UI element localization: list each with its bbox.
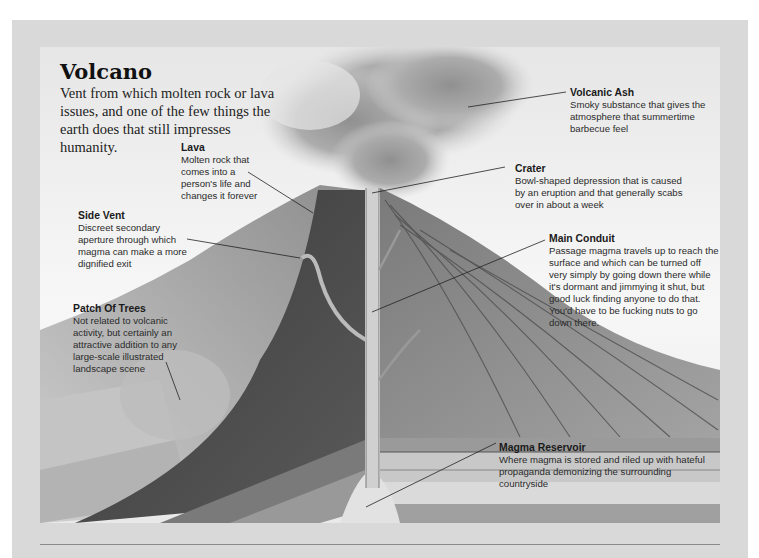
- label-heading: Side Vent: [78, 209, 198, 222]
- label-text: Smoky substance that gives the atmospher…: [570, 99, 705, 134]
- label-text: Not related to volcanic activity, but ce…: [73, 315, 177, 374]
- bottom-rule: [40, 544, 720, 545]
- label-heading: Magma Reservoir: [499, 441, 709, 454]
- label-text: Bowl-shaped depression that is caused by…: [515, 175, 682, 210]
- label-heading: Lava: [181, 141, 259, 154]
- label-side-vent: Side Vent Discreet secondary aperture th…: [78, 209, 198, 270]
- label-text: Passage magma travels up to reach the su…: [549, 245, 719, 328]
- label-heading: Main Conduit: [549, 232, 721, 245]
- page-title: Volcano: [60, 60, 290, 84]
- label-crater: Crater Bowl-shaped depression that is ca…: [515, 162, 685, 211]
- label-text: Molten rock that comes into a person's l…: [181, 154, 257, 201]
- label-lava: Lava Molten rock that comes into a perso…: [181, 141, 259, 202]
- label-text: Discreet secondary aperture through whic…: [78, 222, 187, 269]
- label-volcanic-ash: Volcanic Ash Smoky substance that gives …: [570, 86, 715, 135]
- label-text: Where magma is stored and riled up with …: [499, 454, 705, 489]
- label-patch-of-trees: Patch Of Trees Not related to volcanic a…: [73, 302, 193, 375]
- label-main-conduit: Main Conduit Passage magma travels up to…: [549, 232, 721, 329]
- ash-cloud: [260, 47, 535, 200]
- label-magma-reservoir: Magma Reservoir Where magma is stored an…: [499, 441, 709, 490]
- label-heading: Volcanic Ash: [570, 86, 715, 99]
- label-heading: Patch Of Trees: [73, 302, 193, 315]
- label-heading: Crater: [515, 162, 685, 175]
